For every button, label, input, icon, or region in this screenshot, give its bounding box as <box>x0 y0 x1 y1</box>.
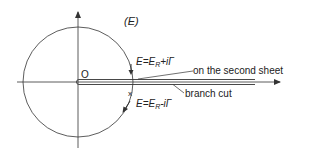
upper-point-label: E=ER+iΓ <box>136 57 174 68</box>
branch-cut-label: branch cut <box>185 89 232 99</box>
second-sheet-leader <box>138 71 193 79</box>
lower-point-prefix: E=E <box>136 98 155 109</box>
upper-point-suffix: +iΓ <box>160 56 174 67</box>
diagram-canvas <box>0 0 315 159</box>
upper-point-prefix: E=E <box>136 56 155 67</box>
lower-point-suffix: -iΓ <box>160 98 171 109</box>
lower-point-label: E=ER-iΓ <box>136 99 172 110</box>
plane-label: (E) <box>124 16 139 27</box>
lower-point-marker: x <box>128 90 132 98</box>
branch-cut-leader <box>173 85 184 94</box>
origin-label: O <box>81 70 89 80</box>
second-sheet-label: on the second sheet <box>193 66 283 76</box>
